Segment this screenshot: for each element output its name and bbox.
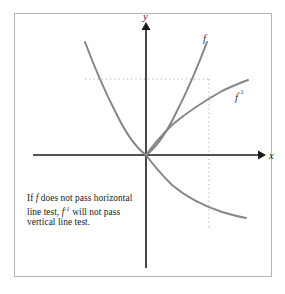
- x-axis-arrow-icon: [258, 151, 266, 160]
- caption-line-2-post: will not pass: [70, 207, 120, 217]
- caption-line-1: If f does not pass horizontal: [27, 193, 152, 204]
- caption-line-1-post: does not pass horizontal: [38, 193, 132, 203]
- caption-line-1-pre: If: [27, 193, 36, 203]
- curve-f-inverse-lower: [146, 155, 246, 218]
- x-axis-label: x: [268, 150, 274, 161]
- caption-line-2: line test, f-1 will not pass: [27, 204, 152, 218]
- figure-root: y x f f-1 If f does not pass horizontal …: [0, 0, 285, 294]
- curve-label-f-inverse: f-1: [235, 88, 244, 104]
- graph-canvas: y x f f-1: [0, 0, 285, 294]
- caption-text-block: If f does not pass horizontal line test,…: [27, 193, 152, 228]
- y-axis-label: y: [142, 11, 148, 22]
- y-axis-arrow-icon: [142, 22, 151, 30]
- curve-label-f-inverse-exponent: -1: [238, 88, 244, 96]
- caption-line-2-pre: line test,: [27, 207, 62, 217]
- caption-line-3: vertical line test.: [27, 217, 152, 228]
- curve-f-inverse-upper: [146, 80, 248, 155]
